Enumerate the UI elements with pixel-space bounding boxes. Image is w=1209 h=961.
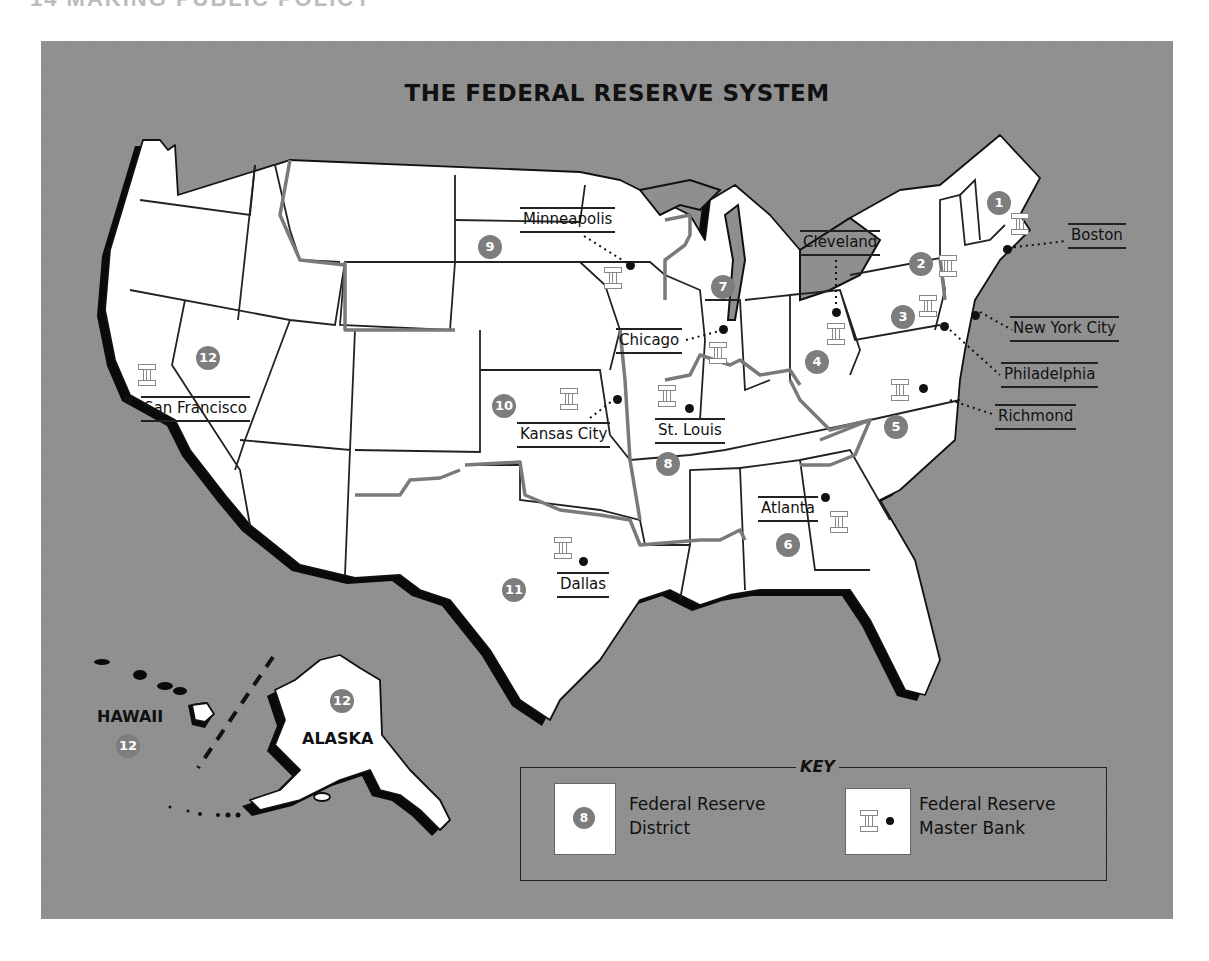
district-marker-4: 4 [805,350,829,374]
district-marker-6: 6 [776,533,800,557]
bank-column-icon-philadelphia [919,295,937,317]
page-header: 14 MAKING PUBLIC POLICY [30,0,372,12]
bank-column-icon-boston [1011,213,1029,235]
bank-column-icon-minneapolis [604,267,622,289]
key-bank-label: Federal Reserve Master Bank [919,792,1055,840]
bank-column-icon-kansas-city [560,388,578,410]
key-bank-label-line2: Master Bank [919,816,1055,840]
bank-column-icon-st-louis [658,385,676,407]
city-label-chicago: Chicago [616,328,682,354]
city-label-philadelphia: Philadelphia [1001,362,1098,388]
map-key: KEY 8 Federal Reserve District Federal R… [520,767,1107,881]
city-dot-sample [886,817,894,825]
city-label-san-francisco: San Francisco [141,396,250,422]
district-marker-8: 8 [656,452,680,476]
district-marker-7: 7 [711,275,735,299]
city-dot-chicago [719,325,728,334]
city-label-minneapolis: Minneapolis [520,207,615,233]
district-marker-sample: 8 [573,807,595,829]
district-marker-2: 2 [909,252,933,276]
district-marker-5: 5 [884,415,908,439]
bank-column-icon-dallas [554,537,572,559]
key-bank-swatch [845,788,911,855]
district-marker-12: 12 [196,346,220,370]
city-label-st-louis: St. Louis [655,418,725,444]
city-label-richmond: Richmond [995,404,1076,430]
district-marker-11: 11 [502,578,526,602]
bank-column-icon-atlanta [830,511,848,533]
city-dot-philadelphia [940,322,949,331]
city-dot-dallas [579,557,588,566]
key-district-label-line2: District [629,816,765,840]
district-marker-1: 1 [987,191,1011,215]
city-dot-kansas-city [613,395,622,404]
city-dot-minneapolis [626,261,635,270]
city-dot-cleveland [832,308,841,317]
key-district-swatch: 8 [554,783,616,855]
district-marker-3: 3 [891,305,915,329]
city-dot-san-francisco [124,395,133,404]
district-marker-10: 10 [492,394,516,418]
bank-column-icon-new-york [939,255,957,277]
city-label-kansas-city: Kansas City [517,422,610,448]
alaska-label: ALASKA [302,729,373,748]
key-district-label-line1: Federal Reserve [629,792,765,816]
aleutian-islands [169,806,241,818]
map-panel: THE FEDERAL RESERVE SYSTEM [41,41,1173,919]
city-dot-atlanta [821,493,830,502]
key-district-label: Federal Reserve District [629,792,765,840]
key-bank-label-line1: Federal Reserve [919,792,1055,816]
city-dot-boston [1003,245,1012,254]
city-label-new-york-city: New York City [1010,316,1119,342]
bank-column-icon-san-francisco [138,364,156,386]
bank-column-icon-sample [860,810,878,832]
city-dot-st-louis [685,404,694,413]
city-dot-richmond [919,384,928,393]
hawaii-label: HAWAII [97,707,163,726]
city-label-cleveland: Cleveland [800,230,880,256]
bank-column-icon-cleveland [827,323,845,345]
kodiak-island [314,793,330,801]
district-marker-9: 9 [478,235,502,259]
bank-column-icon-chicago [709,342,727,364]
city-label-atlanta: Atlanta [758,496,818,522]
bank-column-icon-richmond [891,379,909,401]
key-title: KEY [796,757,839,776]
city-dot-new-york [971,311,980,320]
district-marker-12-hawaii: 12 [116,734,140,758]
city-label-dallas: Dallas [557,572,609,598]
city-label-boston: Boston [1068,223,1126,249]
district-marker-12-alaska: 12 [330,689,354,713]
